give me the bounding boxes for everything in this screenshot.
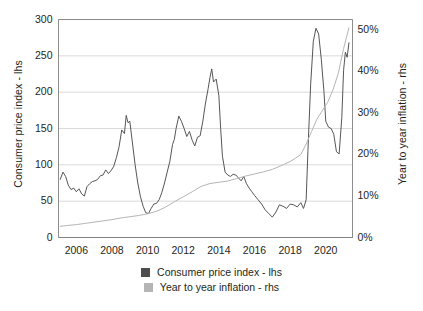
y-axis-left-tick-200: 200 — [23, 85, 53, 97]
x-axis-tick-2012: 2012 — [163, 244, 203, 256]
legend-item-year-to-year-inflation: Year to year inflation - rhs — [144, 281, 279, 293]
series-line-consumer-price-index — [60, 28, 349, 217]
chart-legend: Consumer price index - lhsYear to year i… — [0, 266, 423, 293]
legend-item-consumer-price-index: Consumer price index - lhs — [141, 266, 282, 278]
x-axis-tick-2008: 2008 — [92, 244, 132, 256]
y-axis-left-tick-50: 50 — [23, 194, 53, 206]
y-axis-right-tick-30: 30% — [358, 106, 392, 118]
y-axis-right-tick-0: 0% — [358, 231, 392, 243]
y-axis-right-tick-20: 20% — [358, 147, 392, 159]
y-axis-right-tick-40: 40% — [358, 64, 392, 76]
series-line-year-to-year-inflation — [60, 28, 349, 226]
legend-label: Year to year inflation - rhs — [160, 281, 279, 293]
x-axis-tick-2016: 2016 — [235, 244, 275, 256]
y-axis-left-tick-250: 250 — [23, 49, 53, 61]
chart-figure: Consumer price index - lhs Year to year … — [0, 0, 423, 311]
legend-swatch-icon — [141, 268, 150, 277]
legend-label: Consumer price index - lhs — [157, 266, 282, 278]
y-axis-left-tick-100: 100 — [23, 158, 53, 170]
legend-swatch-icon — [144, 283, 153, 292]
y-axis-left-tick-0: 0 — [23, 231, 53, 243]
x-axis-tick-2020: 2020 — [306, 244, 346, 256]
x-axis-tick-2010: 2010 — [128, 244, 168, 256]
x-axis-tick-2018: 2018 — [270, 244, 310, 256]
y-axis-right-tick-10: 10% — [358, 189, 392, 201]
y-axis-left-tick-300: 300 — [23, 13, 53, 25]
x-axis-tick-2006: 2006 — [56, 244, 96, 256]
x-axis-tick-2014: 2014 — [199, 244, 239, 256]
y-axis-right-tick-50: 50% — [358, 23, 392, 35]
y-axis-left-tick-150: 150 — [23, 122, 53, 134]
